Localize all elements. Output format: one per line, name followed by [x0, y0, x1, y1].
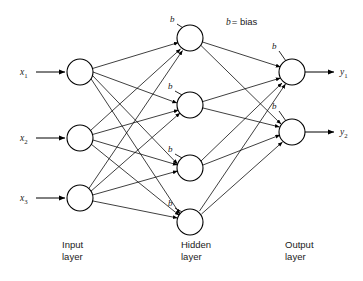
input-node-2 [67, 125, 93, 151]
legend-bias: b= bias [226, 16, 258, 27]
output-node-1 [279, 59, 305, 85]
connections-input-to-hidden [89, 43, 183, 219]
hidden-node-1 [177, 25, 203, 51]
input-labels: x1 x2 x3 [19, 67, 28, 205]
legend-text: b= bias [226, 16, 258, 27]
bias-label-output-1: b [272, 41, 277, 51]
legend-symbol: b [226, 17, 231, 27]
input-node-3 [67, 185, 93, 211]
layer-captions: Inputlayer Hiddenlayer Outputlayer [62, 239, 314, 262]
input-arrows [36, 72, 65, 198]
connection-i1-h1 [93, 43, 179, 69]
hidden-layer-nodes [177, 25, 203, 235]
hidden-node-2 [177, 92, 203, 118]
bias-label-hidden-4: b [168, 198, 173, 208]
connection-i1-h3 [92, 75, 178, 164]
connection-h3-o2 [203, 135, 280, 165]
connection-h1-o1 [203, 42, 281, 67]
connection-h4-o2 [202, 142, 283, 214]
output-label-y1: y1 [339, 67, 348, 79]
neural-network-canvas: x1 x2 x3 y1 y2 b b b b b b [0, 0, 363, 281]
hidden-layer-caption: Hiddenlayer [181, 239, 211, 262]
output-label-y2: y2 [339, 127, 348, 139]
bias-line-output-2 [279, 111, 286, 121]
bias-label-hidden-1: b [170, 14, 175, 24]
connection-h1-o2 [201, 46, 281, 125]
bias-label-output-2: b [272, 101, 277, 111]
bias-line-output-1 [279, 51, 286, 61]
input-layer-caption: Inputlayer [62, 239, 83, 262]
bias-label-hidden-3: b [168, 144, 173, 154]
connection-h2-o1 [203, 78, 281, 102]
connection-i2-h1 [91, 49, 181, 131]
legend-description: = bias [232, 16, 258, 27]
connection-i2-h2 [93, 110, 179, 135]
output-labels: y1 y2 [339, 67, 348, 139]
input-node-1 [67, 59, 93, 85]
output-layer-caption: Outputlayer [285, 239, 314, 262]
hidden-node-3 [177, 155, 203, 181]
connection-i1-h4 [91, 78, 181, 214]
output-layer-nodes [279, 59, 305, 145]
connections-hidden-to-output [200, 42, 286, 214]
output-node-2 [279, 119, 305, 145]
input-label-x2: x2 [19, 133, 28, 145]
input-label-x3: x3 [19, 193, 28, 205]
hidden-node-4 [177, 209, 203, 235]
input-label-x1: x1 [19, 67, 28, 79]
bias-label-hidden-2: b [168, 81, 173, 91]
neural-network-diagram: x1 x2 x3 y1 y2 b b b b b b [0, 0, 363, 281]
output-arrows [305, 72, 334, 132]
input-layer-nodes [67, 59, 93, 211]
